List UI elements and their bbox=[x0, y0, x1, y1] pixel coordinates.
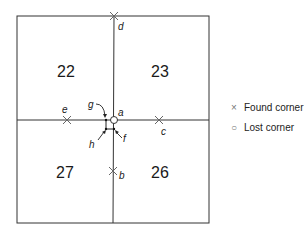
section-26-label: 26 bbox=[151, 164, 169, 181]
legend-lost-label: Lost corner bbox=[244, 122, 294, 133]
pointer-h-arrow bbox=[98, 132, 104, 140]
label-e: e bbox=[62, 104, 68, 115]
section-23-label: 23 bbox=[151, 63, 169, 80]
label-b: b bbox=[119, 170, 125, 181]
legend-found-corner: × Found corner bbox=[228, 102, 303, 113]
section-27-label: 27 bbox=[56, 164, 74, 181]
label-a: a bbox=[118, 107, 124, 118]
section-22-label: 22 bbox=[57, 63, 75, 80]
lost-corner-a-icon bbox=[111, 117, 118, 124]
label-f: f bbox=[123, 133, 127, 144]
lost-corner-icon: ○ bbox=[228, 122, 240, 133]
label-g: g bbox=[88, 99, 94, 110]
label-h: h bbox=[89, 139, 95, 150]
pointer-g-arrowhead-icon bbox=[103, 114, 107, 118]
section-diagram: 22 23 27 26 d e c b a g h f bbox=[0, 0, 308, 232]
label-c: c bbox=[161, 126, 166, 137]
legend-found-label: Found corner bbox=[244, 102, 303, 113]
legend-lost-corner: ○ Lost corner bbox=[228, 122, 294, 133]
found-corner-icon: × bbox=[228, 102, 240, 113]
label-d: d bbox=[118, 21, 124, 32]
